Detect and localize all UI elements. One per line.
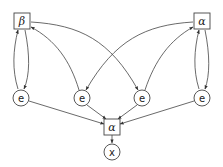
edge-beta-to-e3 — [31, 22, 138, 90]
label-e2: e — [79, 93, 85, 104]
edge-e1-to-beta — [14, 30, 18, 89]
edge-e4-to-alpha-bottom — [120, 101, 194, 124]
edge-e4-to-alpha — [195, 30, 199, 89]
edge-e3-to-alpha-bottom — [118, 105, 137, 119]
edge-e1-to-alpha-bottom — [29, 101, 104, 124]
label-alpha-bottom: α — [108, 121, 116, 134]
edge-beta-to-e1 — [24, 30, 29, 89]
label-x: x — [109, 147, 115, 158]
label-beta: β — [18, 15, 25, 28]
edge-alpha-to-e4 — [205, 30, 209, 89]
edge-e3-to-alpha — [145, 27, 193, 90]
label-e3: e — [139, 93, 145, 104]
label-e4: e — [199, 93, 205, 104]
label-e1: e — [18, 93, 24, 104]
edge-e2-to-alpha-bottom — [87, 105, 106, 119]
diagram-canvas: β α e e e e α x — [0, 0, 223, 167]
edge-alpha-to-e2 — [86, 22, 193, 90]
label-alpha-top: α — [198, 15, 206, 28]
edge-e2-to-beta — [31, 27, 79, 90]
